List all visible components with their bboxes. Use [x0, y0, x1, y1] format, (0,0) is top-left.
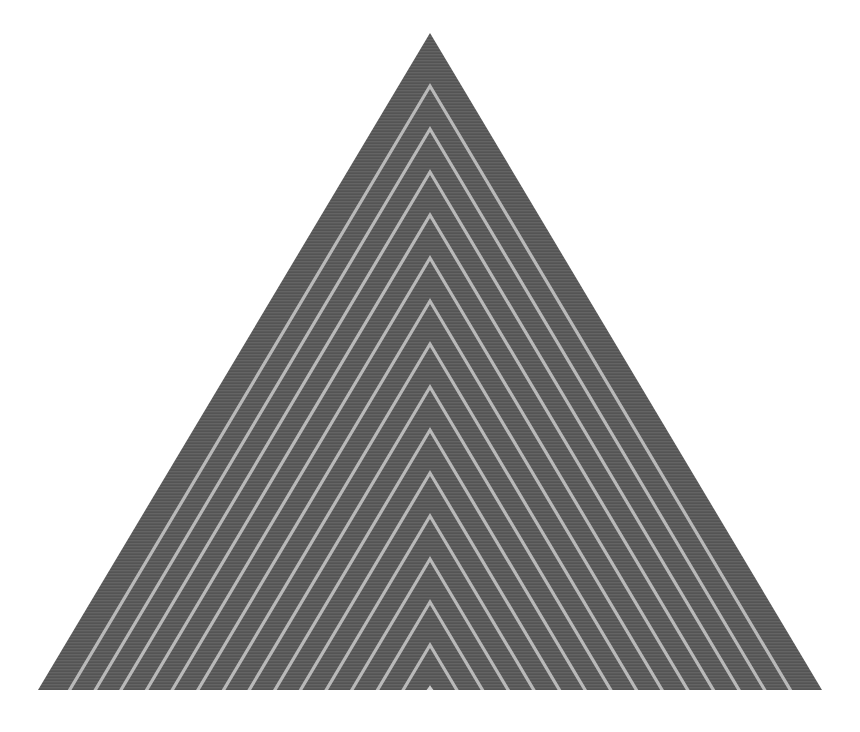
artwork-canvas — [0, 0, 860, 732]
chevron-triangle-figure — [0, 0, 860, 732]
